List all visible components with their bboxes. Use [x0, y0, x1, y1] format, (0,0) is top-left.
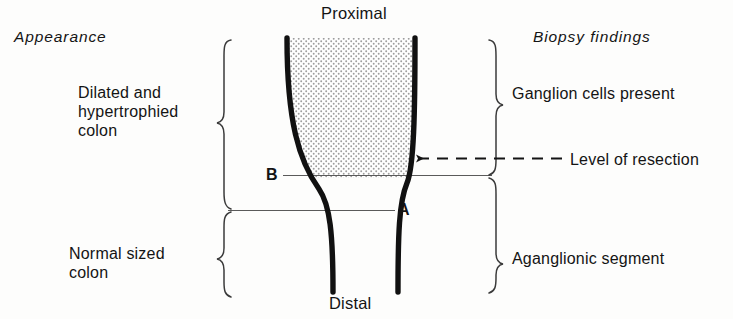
marker-label-b: B [266, 166, 278, 185]
label-ganglion-cells-present: Ganglion cells present [512, 85, 675, 104]
marker-label-a: A [398, 201, 410, 220]
label-distal: Distal [329, 294, 371, 313]
brace-right-upper [489, 40, 503, 175]
brace-left-upper [217, 40, 231, 209]
label-level-of-resection: Level of resection [570, 151, 699, 170]
label-aganglionic-segment: Aganglionic segment [512, 250, 664, 269]
column-header-biopsy-findings: Biopsy findings [533, 28, 651, 46]
brace-left-lower [217, 212, 231, 297]
column-header-appearance: Appearance [14, 28, 107, 46]
label-normal-sized-colon: Normal sized colon [69, 245, 165, 283]
label-dilated-hypertrophied-colon: Dilated and hypertrophied colon [78, 84, 178, 141]
diagram-canvas: Appearance Biopsy findings Dilated and h… [0, 0, 733, 319]
brace-right-lower [489, 178, 503, 293]
label-proximal: Proximal [321, 4, 387, 23]
